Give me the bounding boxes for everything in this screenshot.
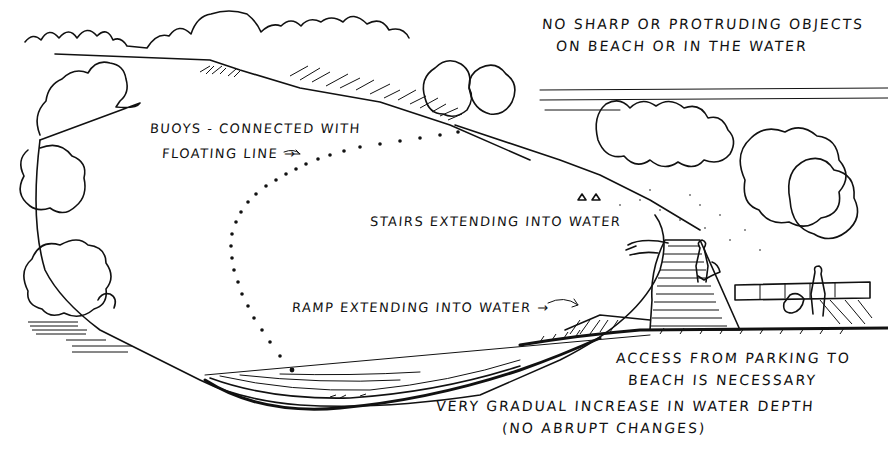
people-figures <box>578 194 825 316</box>
annotation-depth-line2: (NO ABRUPT CHANGES) <box>501 420 707 436</box>
left-trees <box>20 62 140 352</box>
water-body <box>36 140 664 406</box>
annotation-access-line2: BEACH IS NECESSARY <box>627 372 817 388</box>
annotation-depth-line1: VERY GRADUAL INCREASE IN WATER DEPTH <box>435 398 815 414</box>
stairs <box>626 240 740 330</box>
annotation-no-sharp-objects-line2: ON BEACH OR IN THE WATER <box>555 38 808 54</box>
annotation-ramp: RAMP EXTENDING INTO WATER → <box>291 300 550 315</box>
buoy-line <box>229 130 460 372</box>
annotation-no-sharp-objects-line1: NO SHARP OR PROTRUDING OBJECTS <box>541 16 864 32</box>
annotation-stairs: STAIRS EXTENDING INTO WATER <box>369 214 622 229</box>
left-shore-hatching <box>28 322 132 352</box>
annotation-access-line1: ACCESS FROM PARKING TO <box>615 350 851 366</box>
annotation-buoys-line1: BUOYS - CONNECTED WITH <box>149 121 361 136</box>
annotation-buoys-line2: FLOATING LINE → <box>161 146 296 161</box>
background-tree-line <box>25 11 530 160</box>
